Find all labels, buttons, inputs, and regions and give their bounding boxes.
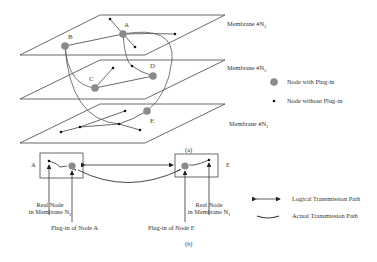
legend-plugin-node-icon xyxy=(270,78,278,86)
diagram-canvas xyxy=(0,0,377,262)
node-c xyxy=(91,84,99,92)
real-node-a-caption: Real Node in Membrane N3 xyxy=(24,201,76,218)
node-b-label: B xyxy=(68,33,73,41)
box-e-label: E xyxy=(226,161,230,168)
legend-plain-label: Node without Plug-in xyxy=(287,97,342,104)
part-a-label: (a) xyxy=(185,146,192,153)
node-d xyxy=(149,72,157,80)
membrane-n2-label: Membrane #N2 xyxy=(227,64,266,74)
box-a xyxy=(40,153,83,178)
node-e xyxy=(143,107,151,115)
legend-logical-label: Logical Transmission Path xyxy=(292,195,360,202)
membrane-plane-n2 xyxy=(20,60,225,99)
legend-plugin-label: Node with Plug-in xyxy=(287,78,334,85)
plugin-a-caption: Plug-in of Node A xyxy=(51,224,98,231)
legend-actual-label: Actual Transmission Path xyxy=(292,212,358,219)
legend-actual-icon xyxy=(257,216,279,218)
membrane-n3-label: Membrane #N3 xyxy=(227,20,266,30)
node-a xyxy=(119,30,127,38)
node-b xyxy=(61,42,69,50)
node-d-label: D xyxy=(150,62,155,70)
node-e-label: E xyxy=(150,117,154,125)
part-b-label: (b) xyxy=(185,240,192,247)
node-c-label: C xyxy=(89,75,94,83)
membrane-plane-n1 xyxy=(20,104,225,143)
legend-plain-node-icon xyxy=(273,100,276,103)
plugin-e-caption: Plug-in of Node E xyxy=(148,224,195,231)
box-a-label: A xyxy=(31,161,36,168)
actual-path xyxy=(78,170,180,183)
membrane-n1-label: Membrane #N1 xyxy=(229,120,268,130)
node-a-label: A xyxy=(124,21,129,29)
detail-boxes xyxy=(40,153,218,178)
real-node-e-caption: Real Node in Membrane N1 xyxy=(182,201,236,218)
